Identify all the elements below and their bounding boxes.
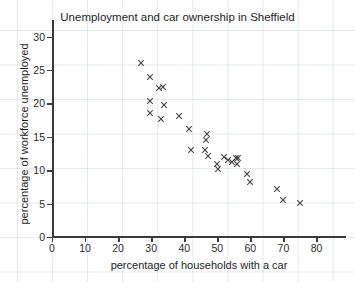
x-tick-label: 40	[178, 243, 190, 254]
x-tick-label: 60	[245, 243, 257, 254]
x-tick-label: 0	[49, 243, 55, 254]
y-tick-label: 20	[33, 98, 45, 109]
plot-area	[52, 30, 333, 237]
y-tick-label: 25	[33, 65, 45, 76]
x-tick-label: 70	[278, 243, 290, 254]
x-tick-label: 30	[145, 243, 157, 254]
scatter-chart-figure: Unemployment and car ownership in Sheffi…	[0, 0, 355, 282]
y-tick-label: 5	[39, 198, 45, 209]
y-tick-label: 0	[39, 232, 45, 243]
x-tick-label: 80	[311, 243, 323, 254]
x-tick-label: 10	[79, 243, 91, 254]
y-tick-label: 10	[33, 165, 45, 176]
x-tick-label: 50	[211, 243, 223, 254]
x-tick-label: 20	[112, 243, 124, 254]
y-tick-label: 15	[33, 132, 45, 143]
y-tick-label: 30	[33, 31, 45, 42]
y-axis-label: percentage of workforce unemployed	[18, 14, 30, 254]
x-axis-label: percentage of households with a car	[52, 259, 346, 271]
